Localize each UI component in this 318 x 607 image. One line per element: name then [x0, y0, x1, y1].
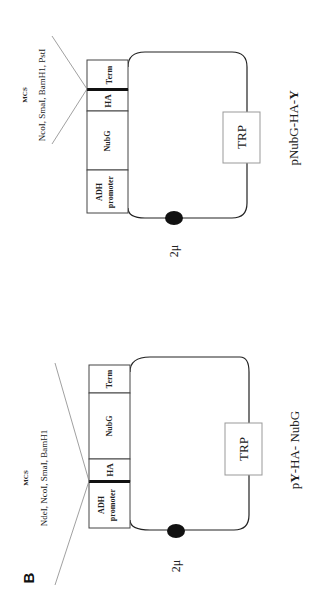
plasmid-name: pY-HA- NubG — [287, 411, 302, 489]
mcs-fan-lines — [55, 363, 89, 585]
nubg-label: NubG — [103, 131, 112, 152]
promoter-label: promoter — [106, 175, 115, 208]
plasmid-pnubg-ha-y: Term HA NubG ADH promoter MCS NcoI, SmaI… — [21, 36, 301, 257]
nubg-label: NubG — [105, 416, 114, 437]
mcs-insertion-bar — [87, 88, 128, 91]
mcs-sites: NdeI, NcoI, SmaI, BamH1 — [39, 430, 49, 526]
plasmid-diagram: B Term NubG HA ADH promoter MCS NdeI, Nc… — [0, 0, 318, 607]
ha-label: HA — [103, 94, 113, 108]
adh-label: ADH — [97, 495, 106, 514]
trp-label: TRP — [236, 437, 251, 461]
term-label: Term — [105, 65, 114, 84]
panel-label: B — [20, 572, 37, 583]
mcs-title: MCS — [21, 87, 29, 103]
mcs-insertion-bar — [89, 480, 130, 483]
two-micron-label: 2μ — [167, 245, 181, 257]
plasmid-name: pNubG-HA-Y — [286, 90, 301, 166]
mcs-title: MCS — [22, 470, 30, 486]
two-micron-origin-dot — [167, 524, 185, 538]
mcs-sites: NcoI, SmaI, BamH1, PstI — [37, 49, 47, 142]
term-label: Term — [105, 369, 114, 388]
mcs-fan-lines — [52, 36, 87, 144]
two-micron-origin-dot — [165, 211, 183, 225]
ha-label: HA — [105, 463, 115, 477]
trp-label: TRP — [234, 125, 249, 149]
adh-label: ADH — [95, 182, 104, 201]
plasmid-py-ha-nubg: Term NubG HA ADH promoter MCS NdeI, NcoI… — [22, 357, 302, 585]
promoter-label: promoter — [108, 488, 117, 521]
two-micron-label: 2μ — [169, 560, 183, 572]
